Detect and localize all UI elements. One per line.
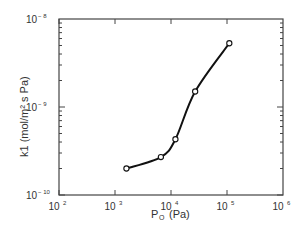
chart: 10210310410510610− 810− 910− 10PO(Pa)k1 … [0, 0, 304, 231]
x-axis-subscript: O [159, 214, 165, 221]
plot-frame [59, 19, 283, 195]
x-tick-exponent: 6 [287, 200, 291, 206]
y-tick-exponent: − 9 [38, 101, 47, 107]
data-point-marker [173, 137, 178, 142]
data-point-marker [193, 89, 198, 94]
x-axis-unit: (Pa) [169, 208, 190, 220]
x-tick-label: 10 [272, 201, 284, 212]
y-axis-label: k1 (mol/m² s Pa) [18, 76, 30, 157]
y-axis-label-text: k1 (mol/m² s Pa) [18, 76, 30, 157]
plot-area: 10210310410510610− 810− 910− 10PO(Pa)k1 … [0, 0, 304, 231]
y-tick-label: 10 [26, 190, 38, 201]
x-tick-exponent: 4 [175, 200, 179, 206]
x-tick-exponent: 5 [231, 200, 235, 206]
data-point-marker [158, 154, 163, 159]
x-axis-label: P [151, 208, 158, 220]
x-tick-label: 10 [48, 201, 60, 212]
x-tick-label: 10 [216, 201, 228, 212]
data-point-marker [124, 166, 129, 171]
y-tick-exponent: − 8 [38, 13, 47, 19]
y-tick-exponent: − 10 [38, 189, 51, 195]
x-tick-exponent: 3 [119, 200, 123, 206]
x-tick-exponent: 2 [63, 200, 67, 206]
x-tick-label: 10 [104, 201, 116, 212]
data-point-marker [227, 41, 232, 46]
data-curve [126, 43, 229, 168]
y-tick-label: 10 [26, 14, 38, 25]
